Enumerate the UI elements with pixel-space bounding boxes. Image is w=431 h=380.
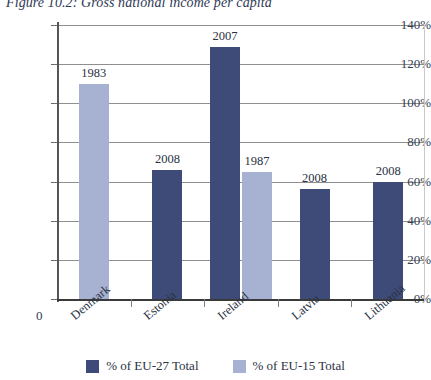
bar-value-label: 2008 (287, 171, 343, 186)
bar-value-label: 1983 (66, 66, 122, 81)
legend-label: % of EU-27 Total (106, 358, 198, 374)
category-separator (204, 299, 205, 307)
x-axis-category-label: Latvia (289, 291, 323, 323)
bar (242, 172, 272, 299)
y-axis-line (57, 22, 59, 302)
bar-value-label: 2008 (360, 164, 416, 179)
category-separator (351, 299, 352, 307)
bar (210, 47, 240, 299)
legend-item: % of EU-15 Total (233, 358, 345, 374)
chart-legend: % of EU-27 Total% of EU-15 Total (0, 358, 431, 374)
gridline (57, 103, 425, 104)
gridline (57, 25, 425, 26)
plot-right-border (424, 25, 425, 301)
gridline (57, 260, 425, 261)
gridline (57, 142, 425, 143)
bar (79, 84, 109, 299)
gridline (57, 182, 425, 183)
chart-figure: Figure 10.2: Gross national income per c… (0, 0, 431, 380)
legend-item: % of EU-27 Total (86, 358, 198, 374)
legend-swatch-eu27 (86, 360, 99, 373)
bar (152, 170, 182, 299)
bar-value-label: 2007 (197, 29, 253, 44)
bar-value-label: 1987 (229, 154, 285, 169)
bar-value-label: 2008 (139, 152, 195, 167)
legend-swatch-eu15 (233, 360, 246, 373)
bar (300, 189, 330, 299)
axis-origin-label: 0 (36, 308, 43, 324)
figure-title: Figure 10.2: Gross national income per c… (6, 0, 272, 11)
gridline (57, 221, 425, 222)
category-separator (131, 299, 132, 307)
legend-label: % of EU-15 Total (253, 358, 345, 374)
category-separator (278, 299, 279, 307)
